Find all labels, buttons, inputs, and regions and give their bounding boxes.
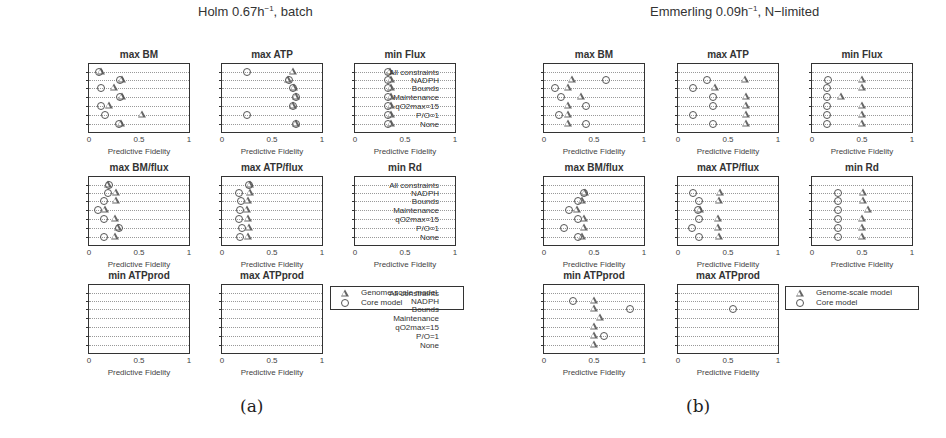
y-tick <box>675 185 678 186</box>
core-model-marker <box>557 93 565 101</box>
y-tick <box>541 301 544 302</box>
y-tick <box>541 80 544 81</box>
genome-scale-marker <box>858 76 866 83</box>
genome-scale-marker <box>858 233 866 240</box>
row-gridline <box>678 345 778 346</box>
x-tick-label: 1 <box>642 356 646 365</box>
x-axis-label: Predictive Fidelity <box>677 368 779 377</box>
y-tick <box>809 106 812 107</box>
y-tick <box>541 336 544 337</box>
row-gridline <box>678 318 778 319</box>
y-tick <box>809 115 812 116</box>
core-model-marker <box>688 224 696 232</box>
subplot-title: max ATP <box>677 49 779 60</box>
core-model-marker <box>580 189 588 197</box>
x-tick-label: 0 <box>676 135 680 144</box>
y-tick <box>809 80 812 81</box>
core-model-marker <box>823 93 831 101</box>
core-model-marker <box>834 233 842 241</box>
genome-scale-marker <box>568 76 576 83</box>
y-tick <box>809 193 812 194</box>
y-tick-label: Bounds <box>412 305 439 314</box>
x-axis-label: Predictive Fidelity <box>543 260 645 269</box>
core-model-marker <box>574 215 582 223</box>
subplot-title: max ATPprod <box>677 270 779 281</box>
core-model-marker <box>689 84 697 92</box>
x-tick-label: 0 <box>676 248 680 257</box>
y-tick <box>541 318 544 319</box>
core-model-marker <box>834 197 842 205</box>
row-gridline <box>544 201 644 202</box>
plot-area <box>811 63 913 133</box>
y-tick <box>675 97 678 98</box>
genome-scale-marker <box>741 76 749 83</box>
core-model-marker <box>694 206 702 214</box>
genome-scale-marker <box>837 93 845 100</box>
y-tick <box>541 219 544 220</box>
x-tick-label: 0 <box>542 135 546 144</box>
y-tick <box>809 237 812 238</box>
genome-scale-marker <box>716 189 724 196</box>
row-gridline <box>678 327 778 328</box>
row-gridline <box>678 97 778 98</box>
x-axis-label: Predictive Fidelity <box>677 147 779 156</box>
core-model-marker <box>695 197 703 205</box>
genome-scale-marker <box>590 332 598 339</box>
y-tick <box>675 293 678 294</box>
core-model-marker <box>709 120 717 128</box>
row-gridline <box>544 318 644 319</box>
genome-scale-marker <box>590 341 598 348</box>
y-tick <box>541 193 544 194</box>
core-model-marker <box>574 197 582 205</box>
y-tick <box>541 345 544 346</box>
genome-scale-marker <box>858 111 866 118</box>
y-tick-label: qO2max=15 <box>395 102 439 111</box>
genome-scale-marker <box>858 224 866 231</box>
row-gridline <box>544 219 644 220</box>
x-tick-label: 1 <box>776 356 780 365</box>
row-gridline <box>812 185 912 186</box>
genome-scale-marker <box>564 120 572 127</box>
y-tick <box>675 301 678 302</box>
genome-scale-marker <box>577 93 585 100</box>
y-tick <box>809 88 812 89</box>
core-model-marker <box>582 102 590 110</box>
row-gridline <box>544 185 644 186</box>
y-tick-label: Maintenance <box>393 314 439 323</box>
core-model-marker <box>709 93 717 101</box>
y-tick <box>541 88 544 89</box>
x-axis-label: Predictive Fidelity <box>543 368 645 377</box>
core-model-marker <box>689 111 697 119</box>
x-tick-label: 1 <box>910 248 914 257</box>
plot-area <box>543 284 645 354</box>
y-tick <box>541 210 544 211</box>
genome-scale-marker <box>742 102 750 109</box>
core-model-marker <box>569 297 577 305</box>
plot-area <box>677 176 779 246</box>
legend-item-core: Core model <box>786 298 918 308</box>
core-model-marker <box>823 120 831 128</box>
core-model-marker <box>824 76 832 84</box>
core-model-marker <box>695 215 703 223</box>
plot-area <box>543 176 645 246</box>
row-gridline <box>678 219 778 220</box>
x-tick-label: 0 <box>810 248 814 257</box>
x-tick-label: 0.5 <box>856 248 867 257</box>
y-tick-label: P/O=1 <box>416 224 439 233</box>
x-tick-label: 0 <box>542 248 546 257</box>
x-tick-label: 0.5 <box>722 248 733 257</box>
y-tick <box>809 219 812 220</box>
genome-scale-marker <box>858 84 866 91</box>
x-tick-label: 0.5 <box>588 356 599 365</box>
core-model-marker <box>823 111 831 119</box>
title-main: Emmerling 0.09h <box>650 4 748 19</box>
plot-area <box>677 63 779 133</box>
x-tick-label: 1 <box>776 248 780 257</box>
genome-scale-marker <box>714 215 722 222</box>
row-gridline <box>678 210 778 211</box>
y-tick <box>675 72 678 73</box>
core-model-marker <box>582 120 590 128</box>
y-tick <box>675 124 678 125</box>
genome-scale-marker <box>858 215 866 222</box>
x-tick-label: 0 <box>810 135 814 144</box>
